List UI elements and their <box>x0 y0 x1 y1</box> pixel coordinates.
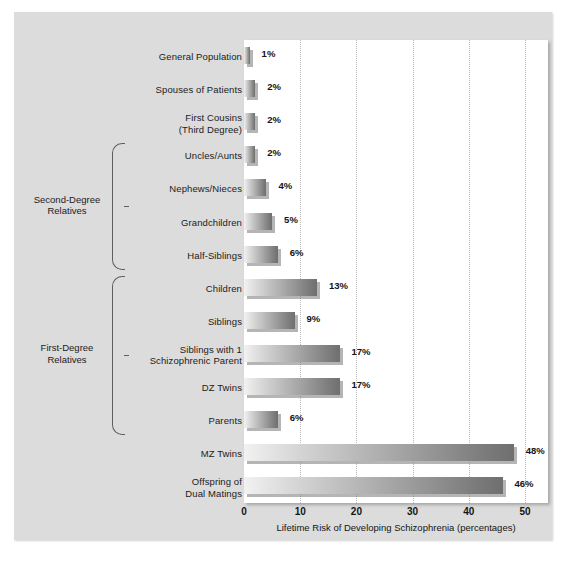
x-tick-10: 10 <box>295 506 306 517</box>
x-tick-30: 30 <box>407 506 418 517</box>
chart-row: Uncles/Aunts2% <box>14 139 552 173</box>
bar-value-label: 1% <box>262 48 276 59</box>
chart-row: General Population1% <box>14 40 552 74</box>
category-label-line1: Uncles/Aunts <box>32 151 242 163</box>
bar[interactable] <box>244 312 295 329</box>
category-label-line1: DZ Twins <box>32 382 242 394</box>
category-label: Uncles/Aunts <box>32 151 242 163</box>
bar-container: 4% <box>244 172 552 206</box>
chart-row: Nephews/Nieces4% <box>14 172 552 206</box>
bar-container: 2% <box>244 73 552 107</box>
category-label-line1: Spouses of Patients <box>32 84 242 96</box>
bar-value-label: 46% <box>515 478 534 489</box>
category-label-line1: Siblings with 1 <box>32 343 242 355</box>
bar-container: 13% <box>244 272 552 306</box>
bar-value-label: 5% <box>284 214 298 225</box>
chart-row: Half-Siblings6% <box>14 239 552 273</box>
bar-container: 46% <box>244 470 552 504</box>
bar-value-label: 6% <box>290 412 304 423</box>
category-label-line1: General Population <box>32 51 242 63</box>
bar[interactable] <box>244 279 317 296</box>
category-label-line2: (Third Degree) <box>32 123 242 135</box>
x-tick-40: 40 <box>463 506 474 517</box>
category-label: Spouses of Patients <box>32 84 242 96</box>
category-label: Half-Siblings <box>32 250 242 262</box>
bar-value-label: 17% <box>352 379 371 390</box>
category-label-line1: Offspring of <box>32 476 242 488</box>
bar-value-label: 6% <box>290 247 304 258</box>
category-label: MZ Twins <box>32 448 242 460</box>
chart-figure: Second-DegreeRelativesFirst-DegreeRelati… <box>0 0 568 566</box>
category-label: Children <box>32 283 242 295</box>
bar[interactable] <box>244 378 340 395</box>
category-label: Grandchildren <box>32 217 242 229</box>
x-axis-title: Lifetime Risk of Developing Schizophreni… <box>244 522 548 533</box>
chart-panel: Second-DegreeRelativesFirst-DegreeRelati… <box>14 12 552 540</box>
chart-row: Offspring ofDual Matings46% <box>14 470 552 504</box>
bar-value-label: 2% <box>267 114 281 125</box>
category-label-line1: MZ Twins <box>32 448 242 460</box>
bar-container: 2% <box>244 106 552 140</box>
category-label-line2: Dual Matings <box>32 487 242 499</box>
bar-container: 6% <box>244 239 552 273</box>
bar[interactable] <box>244 246 278 263</box>
category-label: Siblings with 1Schizophrenic Parent <box>32 343 242 366</box>
category-label-line2: Schizophrenic Parent <box>32 355 242 367</box>
category-label-line1: Parents <box>32 415 242 427</box>
chart-row: Siblings with 1Schizophrenic Parent17% <box>14 338 552 372</box>
category-label-line1: Half-Siblings <box>32 250 242 262</box>
bar[interactable] <box>244 146 255 163</box>
bar[interactable] <box>244 411 278 428</box>
category-label: General Population <box>32 51 242 63</box>
category-label-line1: Children <box>32 283 242 295</box>
bar[interactable] <box>244 113 255 130</box>
bar-value-label: 9% <box>307 313 321 324</box>
category-label: Parents <box>32 415 242 427</box>
bar-value-label: 13% <box>329 280 348 291</box>
bar-container: 6% <box>244 404 552 438</box>
chart-row: Spouses of Patients2% <box>14 73 552 107</box>
chart-row: Siblings9% <box>14 305 552 339</box>
category-label-line1: Grandchildren <box>32 217 242 229</box>
bar-value-label: 2% <box>267 147 281 158</box>
chart-row: Parents6% <box>14 404 552 438</box>
category-label: First Cousins(Third Degree) <box>32 112 242 135</box>
category-label: Offspring ofDual Matings <box>32 476 242 499</box>
bar[interactable] <box>244 47 250 64</box>
bar-value-label: 2% <box>267 81 281 92</box>
chart-row: Children13% <box>14 272 552 306</box>
category-label-line1: Nephews/Nieces <box>32 184 242 196</box>
bar-container: 48% <box>244 437 552 471</box>
category-label-line1: Siblings <box>32 316 242 328</box>
bar-value-label: 17% <box>352 346 371 357</box>
bar[interactable] <box>244 477 503 494</box>
category-label: Siblings <box>32 316 242 328</box>
bar[interactable] <box>244 80 255 97</box>
bar-container: 5% <box>244 206 552 240</box>
category-label: DZ Twins <box>32 382 242 394</box>
x-tick-20: 20 <box>351 506 362 517</box>
category-label-line1: First Cousins <box>32 112 242 124</box>
bar[interactable] <box>244 444 514 461</box>
bar-container: 1% <box>244 40 552 74</box>
bar[interactable] <box>244 345 340 362</box>
category-label: Nephews/Nieces <box>32 184 242 196</box>
bar-value-label: 4% <box>278 180 292 191</box>
chart-row: Grandchildren5% <box>14 206 552 240</box>
bar[interactable] <box>244 213 272 230</box>
x-tick-50: 50 <box>519 506 530 517</box>
bar-container: 2% <box>244 139 552 173</box>
chart-row: First Cousins(Third Degree)2% <box>14 106 552 140</box>
bar-value-label: 48% <box>526 445 545 456</box>
bar-container: 17% <box>244 338 552 372</box>
x-tick-0: 0 <box>241 506 247 517</box>
bar-container: 17% <box>244 371 552 405</box>
chart-row: DZ Twins17% <box>14 371 552 405</box>
bar[interactable] <box>244 179 266 196</box>
chart-row: MZ Twins48% <box>14 437 552 471</box>
bar-container: 9% <box>244 305 552 339</box>
